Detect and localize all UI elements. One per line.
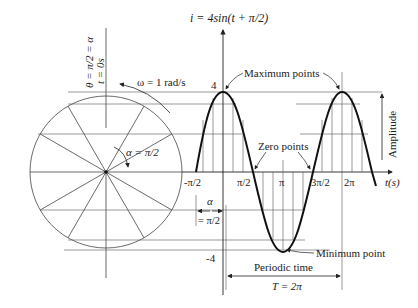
equation-title: i = 4sin(t + π/2) [190, 11, 268, 25]
sine-wave-phasor-diagram: i = 4sin(t + π/2) θ = π/2 = α t = 0s ω =… [0, 0, 418, 308]
phasor-circle [30, 28, 182, 278]
max-pointer-1 [226, 73, 243, 89]
tick-pi: π [279, 177, 285, 188]
circle-centre [104, 170, 108, 174]
tick-3pi-half: 3π/2 [311, 177, 330, 188]
max-tick-label: 4 [211, 79, 217, 91]
t-axis-label: t(s) [385, 176, 400, 189]
phase-alpha-label: α [207, 195, 213, 207]
tick-minus-pi-half: -π/2 [184, 177, 201, 188]
max-pointer-2 [323, 73, 339, 89]
period-value-label: T = 2π [272, 280, 302, 292]
time-zero-label: t = 0s [94, 58, 106, 84]
phase-value-label: = π/2 [198, 215, 220, 226]
tick-pi-half: π/2 [237, 177, 250, 188]
zero-points-label: Zero points [258, 140, 308, 152]
alpha-label: α = π/2 [126, 146, 159, 158]
minimum-point-label: Minimum point [316, 247, 385, 259]
periodic-time-label: Periodic time [254, 261, 313, 273]
projection-lines [38, 92, 382, 250]
min-tick-label: -4 [206, 252, 216, 264]
omega-arc [120, 84, 170, 113]
tick-2pi: 2π [344, 177, 355, 188]
min-pointer [287, 250, 314, 253]
zero-pointer-2 [298, 152, 310, 169]
zero-pointer-1 [255, 152, 266, 169]
amplitude-label: Amplitude [386, 111, 398, 158]
maximum-points-label: Maximum points [244, 67, 319, 79]
omega-label: ω = 1 rad/s [137, 76, 186, 88]
